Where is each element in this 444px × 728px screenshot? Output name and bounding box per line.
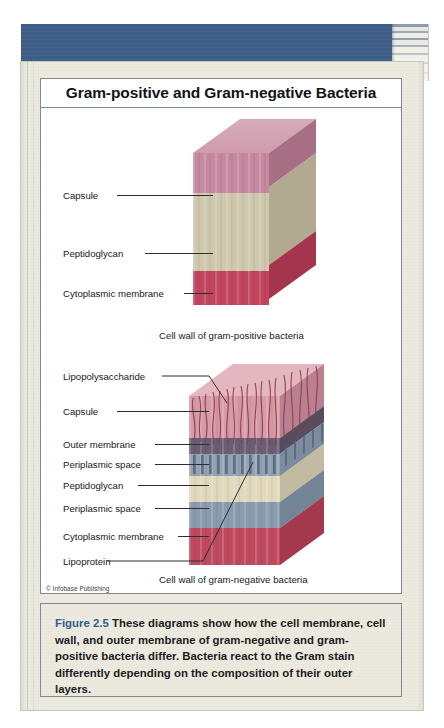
label-periplasmic-space-upper: Periplasmic space (63, 459, 141, 470)
leader-capsule (117, 411, 209, 412)
gram-negative-front-face (189, 396, 280, 565)
figure-title: Gram-positive and Gram-negative Bacteria (66, 84, 376, 102)
figure-title-bar: Gram-positive and Gram-negative Bacteria (41, 79, 401, 108)
layer-cytoplasmic-membrane (189, 528, 280, 565)
layer-peptidoglycan (189, 476, 280, 502)
publisher-credit: © Infobase Publishing (46, 585, 109, 592)
layer-periplasmic-space-upper (189, 454, 280, 476)
label-cytoplasmic-membrane: Cytoplasmic membrane (63, 531, 164, 542)
label-outer-membrane: Outer membrane (63, 439, 136, 450)
figure-caption-box: Figure 2.5 These diagrams show how the c… (40, 603, 402, 697)
leader-peptidoglycan (138, 485, 209, 486)
label-cytoplasmic-membrane: Cytoplasmic membrane (63, 288, 164, 299)
figure-caption: Figure 2.5 These diagrams show how the c… (55, 615, 387, 698)
page-gutter-line-2 (33, 62, 34, 710)
gram-positive-diagram: Capsule Peptidoglycan Cytoplasmic membra… (41, 108, 401, 358)
leader-capsule (117, 195, 213, 196)
gram-positive-side-face (41, 108, 401, 338)
label-peptidoglycan: Peptidoglycan (63, 480, 123, 491)
leader-peptidoglycan (145, 253, 213, 254)
layer-periplasmic-space-lower (189, 502, 280, 528)
gram-positive-subcaption: Cell wall of gram-positive bacteria (159, 330, 304, 341)
layer-capsule (189, 396, 280, 438)
scanned-page: Gram-positive and Gram-negative Bacteria (0, 0, 444, 728)
gram-negative-subcaption: Cell wall of gram-negative bacteria (159, 574, 308, 585)
label-periplasmic-space-lower: Periplasmic space (63, 503, 141, 514)
layer-outer-membrane (189, 438, 280, 454)
figure-caption-label: Figure 2.5 (55, 617, 109, 629)
label-capsule: Capsule (63, 190, 98, 201)
label-capsule: Capsule (63, 406, 98, 417)
leader-cytoplasmic-membrane (178, 536, 209, 537)
figure-box: Gram-positive and Gram-negative Bacteria (40, 78, 402, 594)
leader-cytoplasmic-membrane (184, 293, 213, 294)
leader-periplasmic-space-lower (155, 508, 209, 509)
leader-periplasmic-space-upper (155, 464, 209, 465)
label-lipoprotein: Lipoprotein (63, 556, 110, 567)
label-lipopolysaccharide: Lipopolysaccharide (63, 371, 145, 382)
leader-outer-membrane (155, 444, 209, 445)
page-gutter-line (27, 62, 28, 710)
figure-body: Capsule Peptidoglycan Cytoplasmic membra… (41, 108, 401, 594)
label-peptidoglycan: Peptidoglycan (63, 248, 123, 259)
gram-negative-diagram: Lipopolysaccharide Capsule Outer membran… (41, 356, 401, 594)
